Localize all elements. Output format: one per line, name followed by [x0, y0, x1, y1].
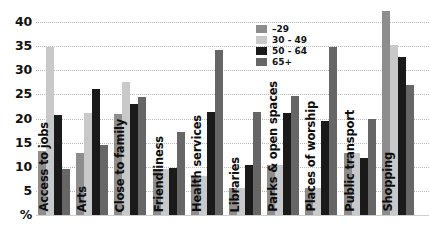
bar[interactable]	[275, 165, 283, 215]
legend-label: 50 - 64	[272, 47, 307, 56]
bar[interactable]	[398, 57, 406, 215]
bar[interactable]	[191, 176, 199, 215]
bar[interactable]	[283, 113, 291, 215]
bar[interactable]	[305, 188, 313, 215]
bar[interactable]	[406, 85, 414, 215]
bar[interactable]	[344, 153, 352, 215]
bar[interactable]	[215, 50, 223, 215]
legend-item[interactable]: 30 - 49	[256, 35, 346, 45]
bar[interactable]	[329, 47, 337, 215]
bar-group	[267, 96, 299, 215]
legend-label: 30 - 49	[272, 36, 307, 45]
bar-chart: 403530252015105% Access to jobsArtsClose…	[0, 0, 429, 234]
bar[interactable]	[161, 169, 169, 215]
bar[interactable]	[92, 89, 100, 215]
y-axis-tick-40: 40	[15, 16, 32, 29]
legend-swatch-icon	[256, 25, 267, 33]
bar[interactable]	[237, 188, 245, 215]
bar[interactable]	[54, 115, 62, 215]
bar-group	[76, 89, 108, 215]
bar[interactable]	[76, 153, 84, 215]
bar-group	[38, 47, 70, 215]
bar-group	[382, 11, 414, 215]
bar[interactable]	[291, 96, 299, 215]
bar[interactable]	[382, 11, 390, 215]
legend-swatch-icon	[256, 36, 267, 44]
y-axis-tick-35: 35	[15, 40, 32, 53]
legend-item[interactable]: –29	[256, 24, 346, 34]
bar-group	[153, 132, 185, 215]
bar[interactable]	[114, 114, 122, 215]
bar[interactable]	[313, 188, 321, 215]
legend-label: 65+	[272, 58, 292, 67]
bar[interactable]	[245, 165, 253, 215]
y-axis-tick-percent: %	[20, 209, 32, 222]
y-axis-tick-10: 10	[15, 161, 32, 174]
bar[interactable]	[253, 112, 261, 215]
y-axis-tick-20: 20	[15, 112, 32, 125]
bar[interactable]	[368, 119, 376, 216]
bar[interactable]	[321, 121, 329, 215]
bar[interactable]	[390, 45, 398, 215]
bar-groups: Access to jobsArtsClose to familyFriendl…	[36, 0, 429, 234]
bar[interactable]	[38, 151, 46, 215]
bar[interactable]	[169, 168, 177, 215]
bar[interactable]	[352, 153, 360, 215]
bar[interactable]	[130, 104, 138, 215]
bar[interactable]	[207, 112, 215, 215]
legend-item[interactable]: 50 - 64	[256, 46, 346, 56]
bar[interactable]	[229, 188, 237, 215]
y-axis: 403530252015105%	[0, 0, 36, 234]
legend-swatch-icon	[256, 47, 267, 55]
legend-swatch-icon	[256, 58, 267, 66]
bar[interactable]	[46, 47, 54, 215]
bar[interactable]	[199, 176, 207, 215]
bar-group	[229, 112, 261, 215]
plot-area: Access to jobsArtsClose to familyFriendl…	[36, 0, 429, 234]
bar[interactable]	[100, 145, 108, 215]
legend-label: –29	[272, 25, 289, 34]
y-axis-tick-15: 15	[15, 136, 32, 149]
y-axis-tick-25: 25	[15, 88, 32, 101]
bar[interactable]	[153, 169, 161, 215]
bar[interactable]	[122, 82, 130, 215]
bar-group	[305, 47, 337, 215]
bar[interactable]	[267, 165, 275, 215]
y-axis-tick-30: 30	[15, 64, 32, 77]
y-axis-tick-5: 5	[24, 185, 33, 198]
bar-group	[344, 119, 376, 216]
bar[interactable]	[177, 132, 185, 215]
bar[interactable]	[84, 113, 92, 215]
bar[interactable]	[138, 97, 146, 215]
legend: –2930 - 4950 - 6465+	[256, 24, 346, 68]
legend-item[interactable]: 65+	[256, 57, 346, 67]
bar-group	[114, 82, 146, 215]
bar[interactable]	[62, 169, 70, 215]
bar-group	[191, 50, 223, 215]
bar[interactable]	[360, 158, 368, 215]
